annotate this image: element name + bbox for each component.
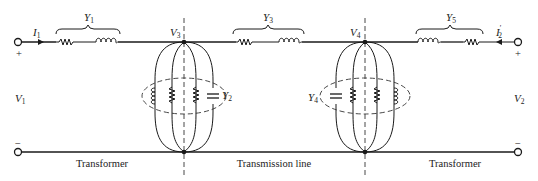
section-label-transformer-left: Transformer [76,158,129,169]
y4-label: Y4 [308,91,318,105]
y3-inductor [279,38,302,43]
section-label-transformer-right: Transformer [429,158,482,169]
y3-brace [233,25,304,34]
v1-label: V1 [15,92,26,106]
top-wire [22,38,514,45]
circuit-diagram: I1 Y1 V3 Y3 V4 Y5 I′2 Y2 Y4 V1 V2 + − + … [0,0,538,181]
left-plus-sign: + [16,48,22,59]
y2-inductor [151,88,155,104]
terminal-right-bottom [515,149,522,156]
y5-label: Y5 [446,11,456,25]
y1-resistor [56,39,96,45]
right-minus-sign: − [515,138,521,149]
i2-label: I′2 [495,24,502,40]
terminal-right-top [515,39,522,46]
y1-label: Y1 [84,11,94,25]
y1-brace [56,25,120,34]
right-plus-sign: + [515,48,521,59]
y3-resistor [236,39,279,45]
v2-label: V2 [514,92,525,106]
v4-label: V4 [350,26,361,40]
y1-inductor [96,38,118,43]
terminal-left-top [15,39,22,46]
left-minus-sign: − [15,138,21,149]
y5-brace [416,25,483,34]
y4-inductor [394,88,398,104]
terminal-left-bottom [15,149,22,156]
y5-inductor [418,38,441,43]
y2-label: Y2 [222,89,232,103]
y5-resistor [463,39,514,45]
y3-label: Y3 [263,11,273,25]
i1-label: I1 [32,26,41,40]
v3-label: V3 [170,26,181,40]
section-label-transmission-line: Transmission line [237,158,312,169]
